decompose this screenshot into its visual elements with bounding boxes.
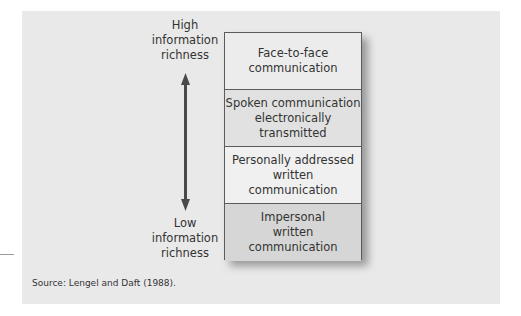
high-richness-label: High information richness — [135, 18, 235, 63]
high-label-line: information — [135, 33, 235, 48]
media-richness-stack: Face-to-face communication Spoken commun… — [224, 32, 362, 260]
source-caption: Source: Lengel and Daft (1988). — [32, 278, 176, 288]
media-face-to-face: Face-to-face communication — [225, 33, 361, 90]
media-text: written — [273, 168, 314, 183]
media-text: transmitted — [259, 126, 326, 141]
high-label-line: richness — [135, 48, 235, 63]
low-label-line: Low — [135, 216, 235, 231]
media-text: communication — [249, 183, 338, 198]
media-impersonal-written: Impersonal written communication — [225, 204, 361, 261]
media-text: Impersonal — [261, 210, 325, 225]
media-text: written — [273, 225, 314, 240]
media-text: electronically — [255, 111, 332, 126]
low-label-line: richness — [135, 246, 235, 261]
low-richness-label: Low information richness — [135, 216, 235, 261]
media-personally-addressed-written: Personally addressed written communicati… — [225, 147, 361, 204]
media-text: communication — [249, 61, 338, 76]
media-text: communication — [249, 240, 338, 255]
media-spoken-electronic: Spoken communication electronically tran… — [225, 90, 361, 147]
low-label-line: information — [135, 231, 235, 246]
high-label-line: High — [135, 18, 235, 33]
margin-rule — [0, 254, 14, 255]
media-text: Spoken communication — [226, 96, 361, 111]
double-arrow-icon — [181, 73, 190, 211]
media-text: Face-to-face — [258, 46, 329, 61]
media-text: Personally addressed — [232, 153, 354, 168]
